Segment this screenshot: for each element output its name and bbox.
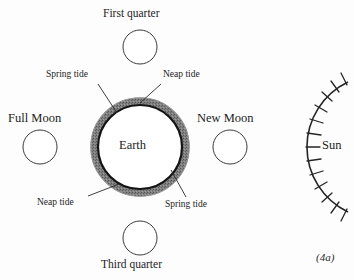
figure-mark: (4a) xyxy=(316,252,334,263)
diagram-canvas xyxy=(0,0,354,280)
label-neap-tide-bottom: Neap tide xyxy=(37,198,74,208)
label-neap-tide-top: Neap tide xyxy=(163,70,200,80)
label-spring-tide-top: Spring tide xyxy=(46,70,88,80)
label-new-moon: New Moon xyxy=(197,112,254,125)
leader-spring-tide-top xyxy=(98,84,117,113)
moon-full-moon-circle xyxy=(23,130,57,164)
moon-new-moon-circle xyxy=(213,130,247,164)
label-sun: Sun xyxy=(322,139,341,152)
label-full-moon: Full Moon xyxy=(8,112,61,125)
label-earth: Earth xyxy=(119,139,146,152)
label-first-quarter: First quarter xyxy=(103,8,160,20)
label-third-quarter: Third quarter xyxy=(101,259,162,271)
label-spring-tide-bottom: Spring tide xyxy=(165,200,207,210)
leader-neap-tide-bottom xyxy=(88,184,119,196)
moon-first-quarter-circle xyxy=(123,30,157,64)
moon-third-quarter-circle xyxy=(123,221,157,255)
tides-moon-phases-diagram: First quarter Full Moon New Moon Third q… xyxy=(0,0,354,280)
